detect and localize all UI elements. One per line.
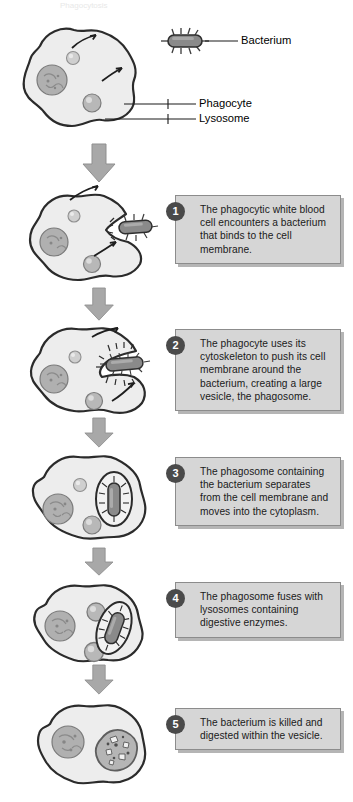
stage-1-illustration: [18, 180, 168, 292]
stage-1-textbox-wrap: 1 The phagocytic white blood cell encoun…: [175, 195, 341, 264]
step-4-text: The phagosome fuses with lysosomes conta…: [200, 591, 323, 628]
nucleus-icon: [40, 228, 68, 256]
down-arrow-icon: [83, 144, 115, 182]
nucleus-icon: [40, 365, 68, 393]
vesicle-icon: [68, 210, 80, 222]
stage-5-textbox-wrap: 5 The bacterium is killed and digested w…: [175, 708, 341, 750]
legend-label-lysosome: Lysosome: [199, 112, 250, 124]
step-3-text: The phagosome containing the bacterium s…: [200, 466, 328, 517]
stage-4: 4 The phagosome fuses with lysosomes con…: [0, 570, 353, 670]
step-2-badge: 2: [166, 336, 185, 355]
legend-leader-lines: [0, 0, 353, 150]
bacterium-icon: [119, 214, 158, 241]
step-4-textbox: 4 The phagosome fuses with lysosomes con…: [175, 582, 341, 638]
step-3-textbox: 3 The phagosome containing the bacterium…: [175, 457, 341, 526]
lysosome-icon: [84, 256, 101, 273]
step-2-textbox: 2 The phagocyte uses its cytoskeleton to…: [175, 329, 341, 411]
nucleus-icon: [43, 494, 73, 524]
stage-legend: Phagocytosis: [0, 0, 353, 150]
stage-1: 1 The phagocytic white blood cell encoun…: [0, 180, 353, 295]
flow-arrow-1: [0, 144, 353, 184]
step-5-badge: 5: [166, 715, 185, 734]
stage-2: 2 The phagocyte uses its cytoskeleton to…: [0, 315, 353, 425]
step-2-text: The phagocyte uses its cytoskeleton to p…: [200, 338, 325, 402]
step-3-badge: 3: [166, 464, 185, 483]
vesicle-icon: [74, 479, 87, 492]
phagosome-icon: [96, 472, 132, 526]
lysosome-icon: [86, 393, 103, 410]
step-1-text: The phagocytic white blood cell encounte…: [200, 204, 326, 255]
nucleus-icon: [52, 726, 84, 758]
lysosome-leader-line: [105, 114, 196, 124]
nucleus-icon: [45, 611, 75, 641]
legend-label-phagocyte: Phagocyte: [199, 97, 252, 109]
legend-label-bacterium: Bacterium: [241, 34, 291, 46]
stage-5: 5 The bacterium is killed and digested w…: [0, 690, 353, 795]
step-1-textbox: 1 The phagocytic white blood cell encoun…: [175, 195, 341, 264]
stage-4-textbox-wrap: 4 The phagosome fuses with lysosomes con…: [175, 582, 341, 638]
stage-5-illustration: [24, 690, 169, 795]
step-1-badge: 1: [166, 202, 185, 221]
stage-2-illustration: [20, 315, 170, 420]
step-5-textbox: 5 The bacterium is killed and digested w…: [175, 708, 341, 750]
lysosome-icon: [83, 516, 101, 534]
stage-4-illustration: [22, 570, 167, 670]
stage-3-textbox-wrap: 3 The phagosome containing the bacterium…: [175, 457, 341, 526]
phagocyte-leader-line: [124, 99, 196, 109]
stage-3: 3 The phagosome containing the bacterium…: [0, 443, 353, 553]
stage-2-textbox-wrap: 2 The phagocyte uses its cytoskeleton to…: [175, 329, 341, 411]
stage-3-illustration: [22, 443, 167, 548]
step-4-badge: 4: [166, 589, 185, 608]
step-5-text: The bacterium is killed and digested wit…: [200, 717, 323, 741]
vesicle-icon: [69, 351, 81, 363]
